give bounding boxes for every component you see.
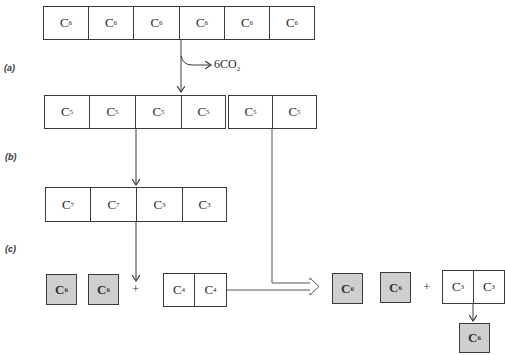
carbon-cell: C5 [273, 96, 316, 128]
carbon-cell: C3 [137, 188, 183, 221]
carbon-cell: C3 [443, 271, 474, 303]
pentose-row-left: C5 C5 C5 C5 [44, 95, 226, 129]
heptose-triose-row: C7 C7 C3 C3 [45, 187, 227, 222]
carbon-cell: C7 [91, 188, 137, 221]
hexose-row: C6 C6 C6 C6 C6 C6 [43, 6, 315, 40]
carbon-cell: C5 [229, 96, 273, 128]
step-label-a: (a) [4, 63, 15, 73]
carbon-cell: C6 [270, 7, 314, 39]
hexose-product-box: C6 [380, 272, 411, 303]
pentose-row-right: C5 C5 [228, 95, 317, 129]
carbon-cell: C5 [182, 96, 225, 128]
plus-sign: + [423, 279, 430, 295]
hexose-product-box: C6 [88, 274, 119, 305]
hexose-product-box: C6 [46, 274, 77, 305]
carbon-cell: C5 [136, 96, 182, 128]
carbon-cell: C3 [474, 271, 504, 303]
step-label-c: (c) [5, 244, 16, 254]
carbon-cell: C6 [225, 7, 270, 39]
hexose-product-box: C6 [459, 323, 490, 353]
carbon-cell: C4 [195, 274, 226, 306]
carbon-cell: C3 [183, 188, 226, 221]
carbon-cell: C6 [89, 7, 134, 39]
hexose-product-box: C6 [332, 273, 363, 304]
plus-sign: + [132, 281, 139, 297]
step-label-b: (b) [5, 152, 17, 162]
carbon-cell: C4 [164, 274, 195, 306]
carbon-cell: C6 [180, 7, 225, 39]
triose-pair: C3 C3 [442, 270, 505, 304]
tetrose-pair: C4 C4 [163, 273, 227, 307]
carbon-cell: C5 [45, 96, 90, 128]
carbon-cell: C6 [44, 7, 89, 39]
carbon-cell: C5 [90, 96, 136, 128]
carbon-cell: C6 [134, 7, 180, 39]
co2-label: 6CO2 [214, 57, 240, 73]
carbon-cell: C7 [46, 188, 91, 221]
